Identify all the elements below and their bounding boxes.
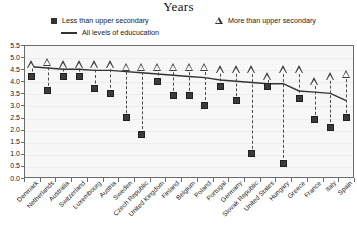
- data-point-square: [248, 150, 255, 157]
- data-point-triangle: [122, 63, 130, 71]
- legend-item-less-than-upper-secondary: Less than upper secondary: [51, 17, 149, 24]
- y-tick-mark: [21, 105, 24, 106]
- data-point-square: [343, 114, 350, 121]
- legend-item-all-levels: All levels of educucation: [61, 29, 159, 36]
- y-tick-mark: [21, 178, 24, 179]
- y-tick-label: 5.0: [0, 54, 20, 61]
- range-stem: [205, 67, 206, 106]
- data-point-triangle: [247, 65, 255, 73]
- y-tick-mark: [21, 142, 24, 143]
- y-tick-mark: [21, 118, 24, 119]
- data-point-triangle: [169, 63, 177, 71]
- data-point-triangle: [342, 70, 350, 78]
- y-tick-label: 4.0: [0, 78, 20, 85]
- y-tick-label: 0.0: [0, 175, 20, 182]
- data-point-triangle: [232, 65, 240, 73]
- data-point-square: [170, 92, 177, 99]
- y-tick-mark: [21, 154, 24, 155]
- legend-item-more-than-upper-secondary: More than upper secondary: [215, 17, 316, 24]
- data-point-triangle: [106, 60, 114, 68]
- data-point-square: [28, 73, 35, 80]
- data-point-square: [154, 78, 161, 85]
- data-point-triangle: [27, 60, 35, 68]
- range-stem: [126, 67, 127, 118]
- y-tick-mark: [21, 166, 24, 167]
- data-point-square: [327, 124, 334, 131]
- data-point-square: [233, 97, 240, 104]
- y-tick-label: 3.0: [0, 102, 20, 109]
- x-axis-labels: DenmarkNetherlandsAustraliaSwitzerlandLu…: [0, 178, 357, 232]
- data-point-triangle: [153, 63, 161, 71]
- triangle-marker-icon: [215, 17, 223, 24]
- legend-label-3: All levels of educucation: [82, 29, 159, 36]
- data-point-triangle: [263, 72, 271, 80]
- chart-title: Years: [0, 0, 357, 15]
- square-marker-icon: [51, 18, 57, 24]
- y-tick-label: 1.0: [0, 150, 20, 157]
- data-point-triangle: [216, 65, 224, 73]
- data-point-triangle: [75, 60, 83, 68]
- data-point-triangle: [326, 72, 334, 80]
- y-tick-label: 3.5: [0, 90, 20, 97]
- y-tick-mark: [21, 69, 24, 70]
- y-tick-label: 2.5: [0, 114, 20, 121]
- data-point-square: [123, 114, 130, 121]
- range-stem: [346, 74, 347, 118]
- data-point-triangle: [90, 60, 98, 68]
- data-point-square: [91, 85, 98, 92]
- range-stem: [315, 81, 316, 120]
- y-tick-mark: [21, 57, 24, 58]
- chart-root: Years Less than upper secondary More tha…: [0, 0, 357, 232]
- legend-label-2: More than upper secondary: [228, 17, 316, 24]
- data-point-square: [264, 83, 271, 90]
- data-point-square: [280, 160, 287, 167]
- data-point-square: [107, 90, 114, 97]
- data-point-square: [60, 73, 67, 80]
- data-point-square: [76, 73, 83, 80]
- legend-label-1: Less than upper secondary: [62, 17, 149, 24]
- line-marker-icon: [61, 32, 77, 34]
- data-point-square: [296, 95, 303, 102]
- data-point-triangle: [279, 65, 287, 73]
- data-point-square: [186, 92, 193, 99]
- data-point-triangle: [59, 60, 67, 68]
- y-tick-label: 2.0: [0, 126, 20, 133]
- chart-legend: Less than upper secondary More than uppe…: [0, 15, 357, 43]
- range-stem: [283, 69, 284, 163]
- y-tick-mark: [21, 45, 24, 46]
- data-point-triangle: [310, 77, 318, 85]
- range-stem: [330, 76, 331, 127]
- data-point-triangle: [137, 63, 145, 71]
- y-tick-label: 0.5: [0, 162, 20, 169]
- y-tick-label: 1.5: [0, 138, 20, 145]
- y-tick-label: 4.5: [0, 66, 20, 73]
- data-point-triangle: [200, 63, 208, 71]
- data-point-square: [138, 131, 145, 138]
- y-tick-label: 5.5: [0, 42, 20, 49]
- data-point-square: [217, 83, 224, 90]
- range-stem: [236, 69, 237, 100]
- data-point-square: [311, 116, 318, 123]
- data-point-triangle: [295, 65, 303, 73]
- data-point-triangle: [43, 58, 51, 66]
- range-stem: [252, 69, 253, 154]
- series-layer: [24, 45, 354, 178]
- data-point-square: [44, 87, 51, 94]
- range-stem: [142, 67, 143, 135]
- y-tick-mark: [21, 130, 24, 131]
- y-tick-mark: [21, 81, 24, 82]
- y-tick-mark: [21, 93, 24, 94]
- data-point-square: [201, 102, 208, 109]
- data-point-triangle: [185, 63, 193, 71]
